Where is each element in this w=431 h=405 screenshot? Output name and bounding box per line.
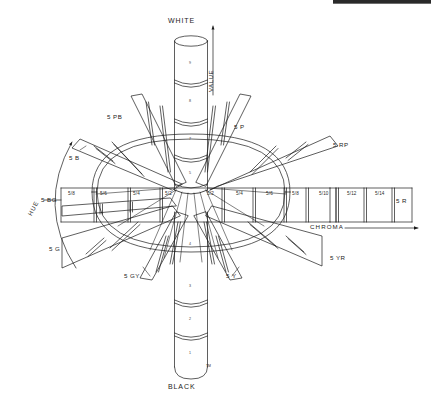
label-value-axis: VALUE <box>208 70 214 92</box>
value-step-lower-0: 4 <box>189 243 191 247</box>
hue-wheel-rim <box>92 134 290 252</box>
chroma-chip-left-2: 5/4 <box>133 192 140 197</box>
value-step-upper-2: 7 <box>189 138 191 142</box>
hue-label-5GY: 5 GY <box>124 273 140 279</box>
chroma-chip-right-0: 5/2 <box>207 192 214 197</box>
hue-label-5P: 5 P <box>234 124 245 130</box>
chroma-chip-right-3: 5/8 <box>292 192 299 197</box>
hue-blade-5YR <box>206 206 322 266</box>
value-step-lower-1: 3 <box>189 285 191 289</box>
hue-blade-5PB <box>116 94 186 186</box>
chroma-chip-right-1: 5/4 <box>236 192 243 197</box>
chroma-chip-right-5: 5/12 <box>347 192 357 197</box>
chroma-chip-right-4: 5/10 <box>319 192 329 197</box>
hue-label-5YR: 5 YR <box>330 255 345 261</box>
hue-blade-5RP <box>210 136 338 190</box>
value-axis-cylinder-upper <box>175 36 208 190</box>
chroma-chip-right-6: 5/14 <box>375 192 385 197</box>
hue-label-5R: 5 R <box>396 198 407 204</box>
trademark-mark: TM <box>206 365 211 368</box>
value-axis-cylinder-lower <box>175 212 208 379</box>
hue-label-5Y: 5 Y <box>226 273 237 279</box>
value-step-lower-3: 1 <box>189 352 191 356</box>
hue-label-5RP: 5 RP <box>333 142 349 148</box>
hue-label-5BG: 5 BG <box>41 197 57 203</box>
chroma-chip-left-1: 5/6 <box>100 192 107 197</box>
chroma-chip-left-0: 5/8 <box>68 192 75 197</box>
value-step-upper-1: 8 <box>189 100 191 104</box>
scan-artifact-bar-soft <box>333 3 431 4</box>
chroma-chip-left-3: 5/2 <box>165 192 172 197</box>
chroma-chip-right-2: 5/6 <box>266 192 273 197</box>
label-white: WHITE <box>168 17 195 24</box>
value-step-center: 5 <box>189 172 191 176</box>
value-step-lower-2: 2 <box>189 318 191 322</box>
munsell-diagram-figure: WHITE BLACK TM VALUE CHROMA HUE 5 PB 5 P… <box>0 0 431 405</box>
label-chroma-axis: CHROMA <box>310 224 344 230</box>
label-black: BLACK <box>168 383 195 390</box>
hue-blade-5P <box>196 94 251 186</box>
value-step-upper-0: 9 <box>189 62 191 66</box>
hue-label-5B: 5 B <box>69 155 80 161</box>
munsell-line-art <box>0 0 431 405</box>
hue-label-5G: 5 G <box>49 246 60 252</box>
hub-convergence-lines <box>96 188 286 262</box>
hue-label-5PB: 5 PB <box>107 114 122 120</box>
